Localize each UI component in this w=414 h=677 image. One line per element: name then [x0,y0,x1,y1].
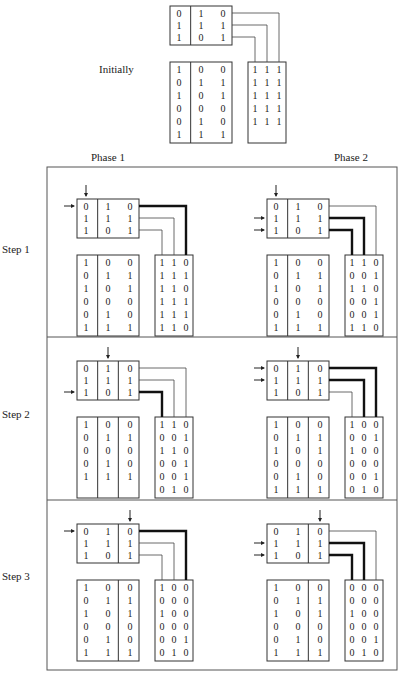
right-matrix-cell: 0 [362,621,367,632]
right-matrix-cell: 1 [160,608,165,619]
right-matrix: 111111111111111 [248,62,286,143]
left-matrix: 100011101000010111 [77,255,139,336]
right-matrix-cell: 0 [172,458,177,469]
top-matrix-cell: 1 [296,201,301,212]
column-pointer-arrowhead-icon [296,355,300,359]
right-matrix-cell: 0 [374,283,379,294]
right-matrix-cell: 1 [172,296,177,307]
top-matrix: 010111101 [267,524,329,563]
right-matrix-cell: 1 [374,432,379,443]
left-matrix-cell: 1 [274,647,279,658]
right-matrix-cell: 0 [350,582,355,593]
right-matrix-cell: 0 [374,647,379,658]
right-matrix-cell: 1 [172,445,177,456]
left-matrix-cell: 0 [84,432,89,443]
left-matrix-cell: 1 [84,257,89,268]
top-matrix-cell: 1 [177,20,182,31]
left-matrix-cell: 1 [221,90,226,101]
left-matrix-cell: 1 [296,432,301,443]
right-matrix-cell: 1 [374,471,379,482]
right-matrix-cell: 0 [184,621,189,632]
right-matrix-cell: 1 [350,445,355,456]
left-matrix-cell: 0 [296,419,301,430]
right-matrix-cell: 1 [253,103,258,114]
left-matrix: 100011000010111 [77,417,139,498]
row-pointer-arrowhead-icon [261,228,265,232]
left-matrix-cell: 1 [128,647,133,658]
left-matrix-cell: 0 [296,608,301,619]
top-matrix-cell: 0 [84,363,89,374]
left-matrix-cell: 1 [84,471,89,482]
left-matrix-cell: 0 [274,309,279,320]
left-matrix-cell: 0 [84,296,89,307]
label-phase-1: Phase 1 [91,151,125,163]
column-pointer-arrowhead-icon [274,193,278,197]
left-matrix-cell: 0 [318,419,323,430]
panel-step-1-phase-1: 0101111011000111010000101111101111101111… [64,185,193,336]
left-matrix-cell: 1 [128,432,133,443]
top-matrix-cell: 1 [106,526,111,537]
right-matrix-cell: 0 [172,432,177,443]
row-pointer-arrowhead-icon [71,529,75,533]
left-matrix: 100011101000010111 [77,580,139,661]
left-matrix-cell: 0 [296,621,301,632]
right-matrix-cell: 0 [350,621,355,632]
top-matrix-cell: 0 [274,526,279,537]
left-matrix-cell: 0 [106,296,111,307]
wire-row-2-active [329,543,364,580]
left-matrix-cell: 0 [106,621,111,632]
right-matrix-cell: 1 [350,322,355,333]
left-matrix-cell: 0 [274,621,279,632]
left-matrix-cell: 0 [318,621,323,632]
right-matrix-cell: 1 [253,116,258,127]
left-matrix-cell: 1 [296,484,301,495]
top-matrix: 010111101 [77,199,139,238]
right-matrix-cell: 1 [184,458,189,469]
right-matrix-cell: 1 [362,647,367,658]
right-matrix-cell: 0 [184,445,189,456]
right-matrix-cell: 0 [374,595,379,606]
top-matrix-cell: 1 [274,550,279,561]
panel-step-3-phase-1: 0101111011000111010000101111000001000000… [64,510,193,661]
right-matrix-cell: 1 [374,634,379,645]
right-matrix-cell: 1 [362,283,367,294]
top-matrix-cell: 0 [318,526,323,537]
left-matrix-cell: 1 [274,582,279,593]
right-matrix: 110001110001001010 [155,417,193,498]
left-matrix-cell: 1 [296,634,301,645]
left-matrix-cell: 0 [128,419,133,430]
left-matrix-cell: 0 [128,634,133,645]
left-matrix-cell: 0 [128,582,133,593]
wire-row-3-active [329,555,352,580]
right-matrix-cell: 0 [362,608,367,619]
right-matrix-cell: 0 [172,608,177,619]
top-matrix: 010111101 [77,361,139,400]
left-matrix-cell: 1 [128,608,133,619]
top-matrix-cell: 1 [274,387,279,398]
right-matrix-cell: 0 [350,458,355,469]
left-matrix-cell: 1 [296,471,301,482]
left-matrix-cell: 1 [128,471,133,482]
right-matrix-cell: 0 [374,608,379,619]
top-matrix-cell: 1 [318,375,323,386]
left-matrix-cell: 0 [106,419,111,430]
top-matrix-cell: 1 [84,550,89,561]
right-matrix-cell: 0 [374,582,379,593]
left-matrix-cell: 0 [296,257,301,268]
top-matrix-cell: 1 [318,538,323,549]
top-matrix-cell: 1 [318,387,323,398]
right-matrix-cell: 0 [362,471,367,482]
left-matrix-cell: 0 [318,471,323,482]
right-matrix-cell: 0 [350,309,355,320]
right-matrix-cell: 1 [172,270,177,281]
top-matrix-cell: 1 [221,32,226,43]
left-matrix-cell: 1 [274,608,279,619]
top-matrix-cell: 0 [128,363,133,374]
left-matrix-cell: 0 [128,621,133,632]
right-matrix-cell: 0 [374,445,379,456]
left-matrix-cell: 1 [274,419,279,430]
right-matrix-cell: 0 [184,484,189,495]
right-matrix-cell: 0 [184,283,189,294]
left-matrix-cell: 0 [318,257,323,268]
left-matrix-cell: 0 [128,257,133,268]
